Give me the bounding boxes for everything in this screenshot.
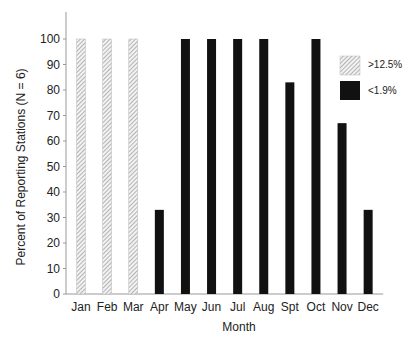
bar-nov bbox=[338, 123, 347, 294]
y-tick-label: 80 bbox=[47, 83, 61, 97]
x-tick-label: Feb bbox=[97, 300, 118, 314]
x-tick-label: Jun bbox=[202, 300, 221, 314]
legend-label-hatched: >12.5% bbox=[368, 59, 402, 70]
bar-jun bbox=[207, 39, 216, 294]
bar-apr bbox=[155, 210, 164, 294]
y-tick-label: 30 bbox=[47, 211, 61, 225]
legend-swatch-hatched bbox=[340, 56, 360, 75]
bar-chart: 0102030405060708090100 JanFebMarAprMayJu… bbox=[0, 0, 413, 346]
y-axis-title: Percent of Reporting Stations (N = 6) bbox=[14, 68, 28, 265]
legend-label-solid: <1.9% bbox=[368, 85, 397, 96]
x-tick-label: May bbox=[174, 300, 197, 314]
x-axis: JanFebMarAprMayJunJulAugSptOctNovDec bbox=[66, 294, 383, 314]
x-tick-label: Jan bbox=[71, 300, 90, 314]
bar-jan bbox=[77, 39, 86, 294]
bar-oct bbox=[311, 39, 320, 294]
y-tick-label: 60 bbox=[47, 134, 61, 148]
y-tick-label: 90 bbox=[47, 58, 61, 72]
y-tick-label: 100 bbox=[40, 32, 60, 46]
bars bbox=[77, 39, 373, 294]
y-tick-label: 10 bbox=[47, 262, 61, 276]
x-tick-label: Spt bbox=[281, 300, 300, 314]
x-tick-label: Apr bbox=[150, 300, 169, 314]
y-tick-label: 20 bbox=[47, 236, 61, 250]
bar-spt bbox=[285, 82, 294, 294]
x-tick-label: Jul bbox=[230, 300, 245, 314]
bar-mar bbox=[129, 39, 138, 294]
legend: >12.5% <1.9% bbox=[340, 56, 402, 100]
bar-jul bbox=[233, 39, 242, 294]
bar-dec bbox=[364, 210, 373, 294]
y-tick-label: 0 bbox=[53, 287, 60, 301]
x-tick-label: Aug bbox=[253, 300, 274, 314]
y-tick-label: 50 bbox=[47, 160, 61, 174]
x-tick-label: Oct bbox=[307, 300, 326, 314]
x-tick-label: Mar bbox=[123, 300, 144, 314]
bar-aug bbox=[259, 39, 268, 294]
y-tick-label: 40 bbox=[47, 185, 61, 199]
legend-swatch-solid bbox=[340, 81, 360, 100]
x-tick-label: Dec bbox=[357, 300, 378, 314]
y-axis: 0102030405060708090100 bbox=[40, 12, 66, 301]
bar-may bbox=[181, 39, 190, 294]
bar-feb bbox=[103, 39, 112, 294]
y-tick-label: 70 bbox=[47, 109, 61, 123]
x-tick-label: Nov bbox=[331, 300, 352, 314]
x-axis-title: Month bbox=[222, 320, 255, 334]
